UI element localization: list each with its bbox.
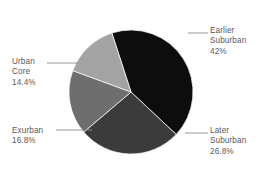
pie-label-value: 16.8%: [12, 136, 43, 146]
pie-chart-figure: Earlier Suburban 42% Later Suburban 26.8…: [0, 0, 271, 180]
pie-label-earlier-suburban: Earlier Suburban 42%: [210, 26, 246, 57]
pie-label-name-line2: Suburban: [210, 36, 246, 46]
pie-slices: [69, 30, 193, 154]
pie-label-urban-core: Urban Core 14.4%: [12, 57, 36, 88]
pie-label-exurban: Exurban 16.8%: [12, 126, 43, 147]
pie-label-name-line1: Earlier: [210, 26, 246, 36]
pie-label-value: 26.8%: [210, 147, 246, 157]
pie-label-name-line2: Suburban: [210, 136, 246, 146]
pie-label-value: 14.4%: [12, 78, 36, 88]
pie-label-name-line1: Exurban: [12, 126, 43, 136]
pie-label-name-line1: Urban: [12, 57, 36, 67]
pie-label-value: 42%: [210, 47, 246, 57]
pie-label-name-line2: Core: [12, 67, 36, 77]
pie-label-later-suburban: Later Suburban 26.8%: [210, 126, 246, 157]
pie-label-name-line1: Later: [210, 126, 246, 136]
